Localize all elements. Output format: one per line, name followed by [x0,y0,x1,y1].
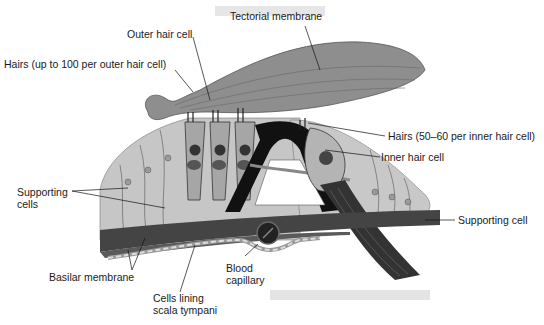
label-supporting-cell: Supporting cell [458,214,527,226]
scan-smudge-bottom [270,290,430,300]
label-blood-capillary-line2: capillary [226,274,265,286]
label-tectorial-membrane: Tectorial membrane [230,10,322,22]
label-blood-capillary: Blood capillary [226,262,265,286]
label-outer-hair-cell: Outer hair cell [127,28,192,40]
label-hairs-inner: Hairs (50–60 per inner hair cell) [388,130,535,142]
label-basilar-membrane: Basilar membrane [49,271,134,283]
organ-of-corti-diagram: Tectorial membrane Outer hair cell Hairs… [0,0,544,325]
label-supporting-cells-line2: cells [17,198,68,210]
label-supporting-cells-line1: Supporting [17,186,68,198]
label-cells-lining-scala-tympani: Cells lining scala tympani [153,292,217,316]
label-inner-hair-cell: Inner hair cell [381,151,444,163]
label-cells-lining-line1: Cells lining [153,292,217,304]
label-cells-lining-line2: scala tympani [153,304,217,316]
tectorial-membrane-shape [145,42,425,120]
label-supporting-cells: Supporting cells [17,186,68,210]
label-blood-capillary-line1: Blood [226,262,265,274]
label-hairs-outer: Hairs (up to 100 per outer hair cell) [4,58,166,70]
